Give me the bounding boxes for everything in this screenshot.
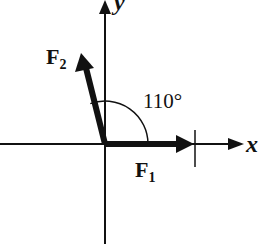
y-axis-label: y: [111, 0, 125, 15]
y-axis-arrowhead-icon: [99, 0, 111, 14]
f1-label: F1: [135, 157, 155, 185]
vector-f1: [105, 135, 194, 153]
x-axis-label: x: [245, 131, 258, 157]
diagram-canvas: y x 110° F1 F2: [0, 0, 271, 252]
x-axis-arrowhead-icon: [228, 138, 244, 150]
f1-arrowhead-icon: [176, 135, 194, 153]
vector-f2: [75, 53, 105, 144]
force-diagram: y x 110° F1 F2: [0, 0, 271, 252]
f2-label: F2: [46, 44, 66, 72]
f2-arrowhead-icon: [75, 53, 94, 72]
angle-label: 110°: [143, 89, 182, 113]
